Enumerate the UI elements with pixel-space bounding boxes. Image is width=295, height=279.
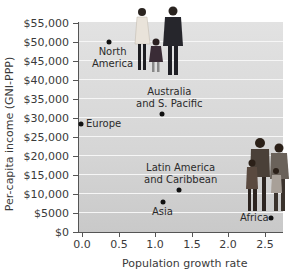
y-tick [73, 42, 78, 43]
y-tick-label: $30,000 [24, 112, 70, 125]
label-line: Latin America [144, 162, 217, 174]
y-tick [73, 175, 78, 176]
y-tick-label: $35,000 [24, 93, 70, 106]
y-tick [73, 232, 78, 233]
x-tick [155, 233, 156, 237]
y-tick [73, 194, 78, 195]
point-asia [161, 200, 166, 205]
x-tick-label: 1.0 [146, 238, 164, 251]
y-tick [73, 23, 78, 24]
x-tick-label: 1.5 [183, 238, 201, 251]
x-tick-label: 2.0 [219, 238, 237, 251]
label-line: North [92, 46, 133, 58]
label-line: America [92, 58, 133, 70]
label-line: and Caribbean [144, 174, 217, 186]
x-tick [192, 233, 193, 237]
y-tick-label: $15,000 [24, 169, 70, 182]
y-tick [73, 213, 78, 214]
x-tick [265, 233, 266, 237]
x-axis [78, 232, 283, 233]
x-tick [82, 233, 83, 237]
point-north-america [107, 40, 112, 45]
y-tick-label: $0 [55, 226, 69, 239]
african-family-photo-icon [246, 137, 290, 215]
y-tick-label: $10,000 [24, 188, 70, 201]
family-photo-icon [133, 4, 187, 76]
y-tick-label: $5000 [34, 207, 69, 220]
y-tick-label: $40,000 [24, 74, 70, 87]
y-tick-label: $55,000 [24, 17, 70, 30]
label-europe: Europe [86, 118, 121, 130]
y-tick [73, 61, 78, 62]
label-line: Australia [136, 86, 202, 98]
point-europe [79, 122, 84, 127]
y-tick [73, 80, 78, 81]
x-axis-title: Population growth rate [122, 257, 247, 270]
point-australia [160, 112, 165, 117]
y-axis [78, 22, 79, 233]
x-tick [228, 233, 229, 237]
label-africa: Africa [240, 212, 269, 224]
x-tick [119, 233, 120, 237]
y-tick [73, 156, 78, 157]
label-line: and S. Pacific [136, 98, 202, 110]
y-tick [73, 137, 78, 138]
x-tick-label: 0.5 [110, 238, 128, 251]
label-latin-america: Latin America and Caribbean [144, 162, 217, 186]
y-tick-label: $45,000 [24, 55, 70, 68]
y-tick-label: $25,000 [24, 131, 70, 144]
x-tick-label: 0.0 [73, 238, 91, 251]
y-tick-label: $20,000 [24, 150, 70, 163]
y-axis-title: Per-capita income (GNI-PPP) [3, 57, 16, 211]
point-latin-america [177, 188, 182, 193]
x-tick-label: 2.5 [256, 238, 274, 251]
label-asia: Asia [152, 206, 173, 218]
point-africa [269, 216, 274, 221]
label-australia: Australia and S. Pacific [136, 86, 202, 110]
y-tick [73, 118, 78, 119]
y-tick-label: $50,000 [24, 36, 70, 49]
y-tick [73, 99, 78, 100]
label-north-america: North America [92, 46, 133, 70]
gridline [78, 79, 283, 80]
